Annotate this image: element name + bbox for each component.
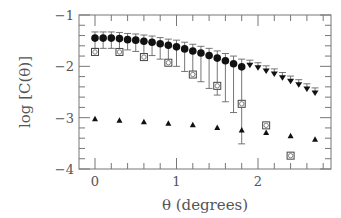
down-triangle-marker	[271, 72, 278, 78]
filled-triangle-marker	[116, 117, 122, 123]
filled-triangle-marker	[190, 122, 196, 128]
filled-circle-marker	[173, 43, 181, 51]
x-tick-label: 2	[254, 174, 262, 189]
x-tick-label: 1	[172, 174, 180, 189]
filled-triangle-marker	[312, 136, 318, 142]
filled-triangle-marker	[165, 120, 171, 126]
down-triangle-marker	[295, 82, 302, 88]
chart: 012−1−2−3−4 θ (degrees) log [C(θ)]	[0, 0, 341, 218]
down-triangle-marker	[255, 65, 262, 71]
filled-circle-marker	[91, 34, 99, 42]
y-tick-label: −1	[55, 8, 74, 23]
data-series	[91, 32, 318, 159]
tick-labels: 012−1−2−3−4	[55, 8, 262, 189]
y-tick-label: −2	[55, 59, 74, 74]
y-tick-label: −4	[55, 162, 74, 177]
x-axis-label: θ (degrees)	[162, 196, 248, 214]
filled-circle-marker	[99, 34, 107, 42]
filled-circle-marker	[222, 57, 230, 65]
filled-triangle-marker	[288, 133, 294, 139]
filled-circle-marker	[189, 47, 197, 55]
filled-triangle-marker	[239, 127, 245, 133]
down-triangle-marker	[287, 79, 294, 85]
filled-triangle-marker	[214, 124, 220, 130]
down-triangle-marker	[279, 75, 286, 81]
filled-circle-marker	[108, 34, 116, 42]
y-tick-label: −3	[55, 111, 74, 126]
x-tick-label: 0	[91, 174, 99, 189]
filled-triangle-marker	[141, 119, 147, 125]
filled-circle-marker	[213, 54, 221, 62]
filled-circle-marker	[124, 36, 132, 44]
filled-circle-marker	[148, 38, 156, 46]
filled-circle-marker	[156, 40, 164, 48]
filled-triangle-marker	[263, 130, 269, 136]
filled-circle-marker	[140, 37, 148, 45]
filled-circle-marker	[238, 63, 246, 71]
y-axis-label: log [C(θ)]	[16, 56, 34, 128]
filled-triangle-marker	[92, 116, 98, 122]
filled-circle-marker	[205, 52, 213, 60]
filled-circle-marker	[132, 36, 140, 44]
filled-circle-marker	[181, 45, 189, 53]
down-triangle-marker	[246, 63, 253, 68]
down-triangle-marker	[263, 68, 270, 74]
filled-circle-marker	[116, 35, 124, 43]
down-triangle-marker	[312, 91, 319, 97]
filled-circle-marker	[165, 41, 173, 49]
filled-circle-marker	[230, 60, 238, 68]
down-triangle-marker	[303, 86, 310, 92]
filled-circle-marker	[197, 49, 205, 57]
